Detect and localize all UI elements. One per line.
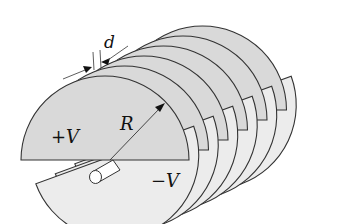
label-d: d: [104, 32, 115, 52]
shaft-end: [90, 171, 102, 184]
capacitor-diagram: d R +V −V: [0, 0, 343, 224]
arrowhead-icon: [83, 66, 92, 73]
plate-stack: [21, 26, 296, 224]
label-positive-voltage: +V: [51, 126, 81, 147]
label-R: R: [119, 113, 134, 134]
label-negative-voltage: −V: [151, 170, 181, 191]
